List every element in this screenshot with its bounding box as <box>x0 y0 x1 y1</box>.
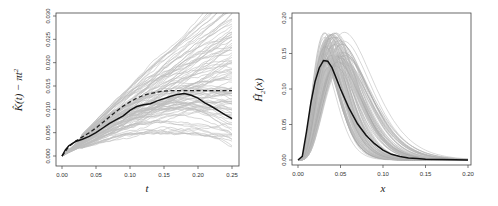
y-tick-label: 0.15 <box>281 47 287 59</box>
right-x-axis-label: x <box>380 182 386 194</box>
y-tick-label: 0.015 <box>45 78 51 94</box>
right-plot: 0.000.050.100.150.20 0.000.050.100.150.2… <box>252 12 474 194</box>
x-tick-label: 0.10 <box>377 171 389 177</box>
right-y-axis: 0.000.050.100.150.20 <box>281 12 292 166</box>
x-tick-label: 0.25 <box>226 172 238 178</box>
y-tick-label: 0.025 <box>45 31 51 47</box>
right-y-axis-label: Ĥ2(x) <box>252 78 267 103</box>
x-tick-label: 0.00 <box>56 172 68 178</box>
left-y-axis: 0.0000.0050.0100.0150.0200.0250.030 <box>45 8 56 164</box>
right-simulation-curves <box>298 32 468 160</box>
x-tick-label: 0.20 <box>462 171 474 177</box>
x-tick-label: 0.10 <box>124 172 136 178</box>
x-tick-label: 0.05 <box>90 172 102 178</box>
y-tick-label: 0.05 <box>281 118 287 130</box>
y-tick-label: 0.030 <box>45 8 51 24</box>
x-tick-label: 0.15 <box>420 171 432 177</box>
x-tick-label: 0.05 <box>335 171 347 177</box>
y-tick-label: 0.000 <box>45 148 51 164</box>
figure: 0.000.050.100.150.200.25 0.0000.0050.010… <box>0 0 498 206</box>
left-x-axis-label: t <box>145 182 149 194</box>
y-tick-label: 0.10 <box>281 83 287 95</box>
x-tick-label: 0.15 <box>158 172 170 178</box>
left-plot: 0.000.050.100.150.200.25 0.0000.0050.010… <box>12 0 239 194</box>
left-x-axis: 0.000.050.100.150.200.25 <box>56 166 238 178</box>
x-tick-label: 0.20 <box>192 172 204 178</box>
left-y-axis-label: K̂(t) − πt2 <box>12 68 25 112</box>
x-tick-label: 0.00 <box>292 171 304 177</box>
y-tick-label: 0.00 <box>281 154 287 166</box>
y-tick-label: 0.20 <box>281 12 287 24</box>
right-x-axis: 0.000.050.100.150.20 <box>292 165 474 177</box>
y-tick-label: 0.005 <box>45 124 51 140</box>
y-tick-label: 0.010 <box>45 101 51 117</box>
y-tick-label: 0.020 <box>45 54 51 70</box>
left-simulation-curves <box>62 0 232 156</box>
